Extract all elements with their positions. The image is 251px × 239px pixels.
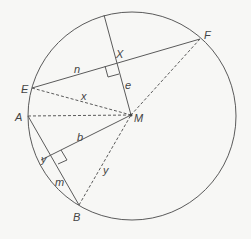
label-m: M <box>134 112 144 124</box>
diagram-canvas: M E F A B X n e x b y y m <box>0 0 251 239</box>
radius-mf <box>131 39 200 115</box>
label-x: X <box>115 48 124 60</box>
label-e: E <box>21 83 29 95</box>
right-angle-mark-ab <box>58 150 67 164</box>
center-point-m <box>130 114 133 117</box>
segment-label-b: b <box>77 131 83 143</box>
segment-label-y-chord: y <box>40 153 48 165</box>
label-f: F <box>204 29 212 41</box>
circle-diagram: M E F A B X n e x b y y m <box>0 0 251 239</box>
right-angle-mark-x <box>105 66 119 77</box>
chord-ab <box>28 116 79 205</box>
segment-label-x: x <box>80 90 87 102</box>
chord-ef <box>32 39 200 88</box>
perpendicular-line <box>104 15 131 115</box>
segment-label-e: e <box>125 79 131 91</box>
label-b: B <box>73 211 80 223</box>
label-a: A <box>14 111 22 123</box>
radius-ma <box>28 115 131 116</box>
segment-label-y-radius: y <box>102 164 110 176</box>
segment-label-m: m <box>55 176 64 188</box>
segment-label-n: n <box>74 63 80 75</box>
